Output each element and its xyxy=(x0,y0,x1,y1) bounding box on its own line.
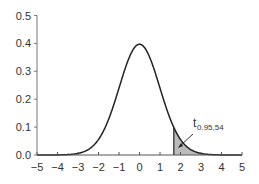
density-curve xyxy=(37,44,242,155)
y-tick-label: 0.4 xyxy=(16,37,31,49)
x-tick-label: −2 xyxy=(92,161,105,173)
x-tick-label: −3 xyxy=(72,161,85,173)
axes: −5−4−3−2−10123450.00.10.20.30.40.5 xyxy=(16,10,245,174)
x-tick-label: 5 xyxy=(239,161,245,173)
x-tick-label: 0 xyxy=(136,161,142,173)
x-tick-label: 2 xyxy=(177,161,183,173)
y-tick-label: 0.1 xyxy=(16,121,31,133)
y-tick-label: 0.0 xyxy=(16,149,31,161)
x-tick-label: −5 xyxy=(31,161,44,173)
y-tick-label: 0.3 xyxy=(16,65,31,77)
x-tick-label: −1 xyxy=(113,161,126,173)
x-tick-label: −4 xyxy=(51,161,64,173)
t-distribution-chart: −5−4−3−2−10123450.00.10.20.30.40.5 t0.95… xyxy=(0,0,259,184)
y-tick-label: 0.5 xyxy=(16,10,31,22)
x-tick-label: 4 xyxy=(218,161,224,173)
svg-text:0.95,54: 0.95,54 xyxy=(197,123,224,132)
x-tick-label: 1 xyxy=(157,161,163,173)
critical-value-annotation: t0.95,54 xyxy=(178,116,224,148)
y-tick-label: 0.2 xyxy=(16,93,31,105)
x-tick-label: 3 xyxy=(198,161,204,173)
